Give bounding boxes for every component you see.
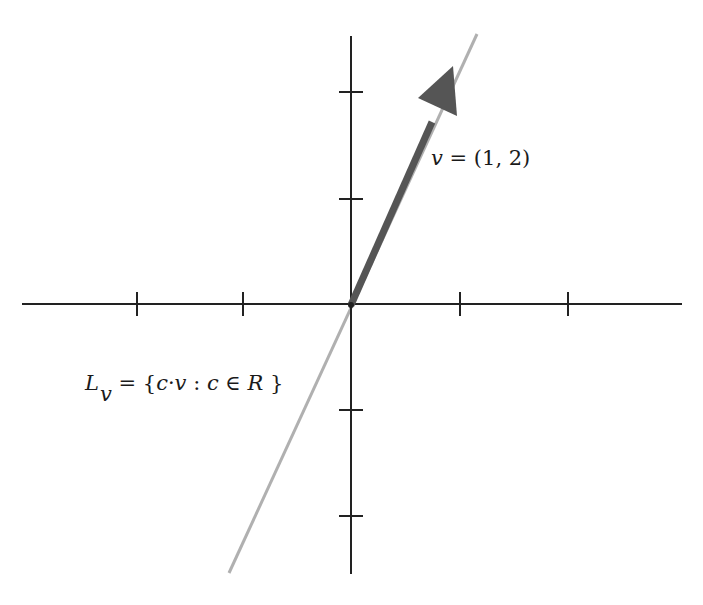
dot-operator: · — [168, 371, 175, 395]
vector-arrow — [351, 66, 457, 305]
vector-components: = (1, 2) — [443, 146, 530, 170]
closing-brace: } — [263, 371, 283, 395]
origin-point — [348, 302, 354, 308]
span-line-label: Lv = {c·v : c ∈ R } — [85, 371, 283, 395]
vector-variable: v — [431, 146, 443, 170]
element-of: ∈ — [219, 371, 248, 395]
coordinate-diagram — [0, 0, 703, 605]
scalar-c-2: c — [207, 371, 219, 395]
colon: : — [186, 371, 206, 395]
reals-symbol: R — [248, 371, 264, 395]
vector-label: v = (1, 2) — [431, 146, 530, 170]
line-subscript: v — [100, 382, 112, 406]
scalar-c: c — [156, 371, 168, 395]
line-equals-brace: = { — [112, 371, 156, 395]
line-symbol: L — [85, 371, 99, 395]
vector-v: v — [175, 371, 187, 395]
